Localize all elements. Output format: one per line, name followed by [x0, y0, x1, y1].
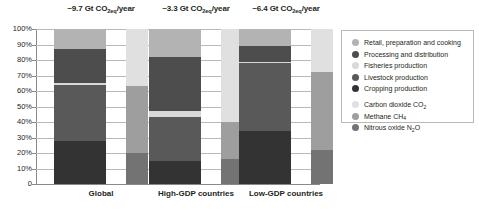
legend-swatch-icon: [352, 124, 359, 131]
y-tick-mark: [32, 45, 36, 46]
legend-label: Nitrous oxide N2O: [364, 124, 420, 131]
legend-item-gas[interactable]: Methane CH4: [352, 113, 406, 120]
emissions-stacked-bar-chart: ~9.7 Gt CO2eq/year ~3.3 Gt CO2eq/year ~6…: [0, 0, 479, 215]
legend-swatch-icon: [352, 62, 359, 69]
bar-segment: [149, 117, 201, 160]
bar-segment: [239, 46, 291, 62]
bar-segment: [239, 62, 291, 64]
y-tick-label: 70%: [17, 72, 32, 80]
legend-item-sector[interactable]: Retail, preparation and cooking: [352, 39, 461, 46]
bar-segment: [239, 29, 291, 46]
legend-item-gas[interactable]: Nitrous oxide N2O: [352, 124, 420, 131]
bar-segment: [149, 111, 201, 117]
bar-segment: [149, 57, 201, 111]
legend-label: Livestock production: [364, 74, 428, 81]
bar-gas-global: [126, 29, 148, 184]
y-tick-mark: [32, 169, 36, 170]
legend-label: Processing and distribution: [364, 51, 448, 58]
bar-segment: [149, 29, 201, 57]
y-tick-label: 30%: [17, 134, 32, 142]
plot-area: 100%90%80%70%60%50%40%30%20%10%0: [36, 29, 320, 185]
y-tick-label: 20%: [17, 149, 32, 157]
bar-segment: [54, 83, 106, 85]
bar-segment: [126, 86, 148, 153]
bar-sector-global: [54, 29, 106, 184]
y-tick-label: 80%: [17, 56, 32, 64]
legend-swatch-icon: [352, 85, 359, 92]
category-label-low-gdp: Low-GDP countries: [226, 189, 346, 198]
legend-label: Retail, preparation and cooking: [364, 39, 461, 46]
y-tick-mark: [32, 107, 36, 108]
legend-swatch-icon: [352, 51, 359, 58]
y-tick-mark: [32, 184, 36, 185]
legend-item-gas[interactable]: Carbon dioxide CO2: [352, 101, 426, 108]
legend-label: Carbon dioxide CO2: [364, 101, 426, 108]
bar-segment: [239, 131, 291, 184]
bar-segment: [311, 29, 333, 72]
y-tick-label: 0: [28, 180, 32, 188]
legend-item-sector[interactable]: Cropping production: [352, 85, 427, 92]
bar-segment: [149, 161, 201, 184]
y-tick-mark: [32, 138, 36, 139]
legend-swatch-icon: [352, 39, 359, 46]
bar-segment: [126, 29, 148, 86]
y-tick-mark: [32, 76, 36, 77]
bar-segment: [54, 49, 106, 83]
y-tick-mark: [32, 91, 36, 92]
bar-segment: [311, 150, 333, 184]
legend-label: Fisheries production: [364, 62, 427, 69]
bar-gas-low-gdp-countries: [311, 29, 333, 184]
chart-legend: Retail, preparation and cookingProcessin…: [341, 30, 474, 123]
legend-swatch-icon: [352, 74, 359, 81]
legend-item-sector[interactable]: Livestock production: [352, 74, 428, 81]
bar-segment: [54, 29, 106, 49]
x-axis-line: [36, 184, 320, 185]
y-tick-mark: [32, 60, 36, 61]
y-tick-label: 50%: [17, 103, 32, 111]
legend-item-sector[interactable]: Fisheries production: [352, 62, 427, 69]
y-tick-label: 10%: [17, 165, 32, 173]
legend-label: Cropping production: [364, 85, 427, 92]
legend-item-sector[interactable]: Processing and distribution: [352, 51, 448, 58]
legend-label: Methane CH4: [364, 113, 406, 120]
legend-swatch-icon: [352, 101, 359, 108]
y-tick-label: 100%: [13, 25, 32, 33]
bar-sector-high-gdp-countries: [149, 29, 201, 184]
bar-segment: [239, 63, 291, 131]
legend-swatch-icon: [352, 113, 359, 120]
y-tick-mark: [32, 153, 36, 154]
y-tick-label: 40%: [17, 118, 32, 126]
bar-segment: [126, 153, 148, 184]
group-title-low-gdp: ~6.4 Gt CO2eq/year: [226, 4, 346, 13]
y-tick-mark: [32, 122, 36, 123]
bar-segment: [54, 85, 106, 141]
y-tick-mark: [32, 29, 36, 30]
bar-segment: [54, 141, 106, 184]
y-tick-label: 60%: [17, 87, 32, 95]
y-tick-label: 90%: [17, 41, 32, 49]
bar-segment: [311, 72, 333, 150]
bar-sector-low-gdp-countries: [239, 29, 291, 184]
